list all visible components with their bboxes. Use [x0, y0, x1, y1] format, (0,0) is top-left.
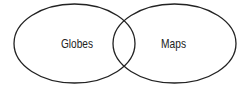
venn-diagram: Globes Maps [0, 0, 243, 94]
maps-label: Maps [161, 36, 186, 51]
globes-label: Globes [61, 36, 93, 51]
